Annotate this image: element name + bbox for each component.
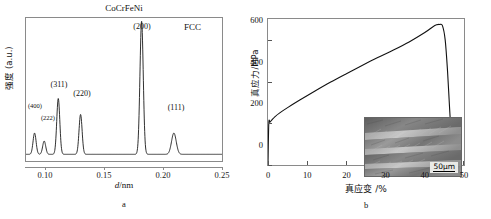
scale-bar-line [433, 171, 455, 172]
figure-container: CoCrFeNi 强度 (a.u.) FCC (400) (222) (311)… [0, 0, 491, 219]
panel-b-stress-strain: 真应力/MPa [245, 0, 491, 219]
panel-b-xtick-0 [268, 161, 269, 165]
panel-b-ytick-0 [268, 165, 272, 166]
panel-a-y-axis-label: 强度 (a.u.) [2, 32, 14, 104]
peak-label-200: (200) [133, 22, 150, 31]
panel-a-xtick-label-1: 0.15 [97, 170, 112, 180]
panel-a-letter: a [25, 199, 223, 209]
panel-b-letter: b [267, 200, 465, 210]
panel-a-x-axis-label-unit: /nm [119, 180, 133, 190]
panel-b-xtick-label-50: 50 [454, 170, 474, 180]
panel-b-ytick-600 [268, 40, 272, 41]
panel-b-ytick-label-400: 400 [239, 57, 263, 67]
panel-b-x-axis-label: 真应变 /% [267, 182, 465, 195]
peak-label-111: (111) [168, 103, 185, 112]
peak-label-220: (220) [73, 89, 90, 98]
panel-b-xtick-20 [346, 161, 347, 165]
panel-a-xrd: CoCrFeNi 强度 (a.u.) FCC (400) (222) (311)… [0, 0, 245, 219]
panel-b-xtick-50 [463, 161, 464, 165]
panel-b-ytick-label-0: 0 [239, 140, 263, 150]
panel-b-ytick-200 [268, 123, 272, 124]
sem-micrograph-inset: 50μm [364, 117, 462, 177]
panel-b-ytick-400 [268, 82, 272, 83]
peak-label-222: (222) [41, 114, 55, 121]
panel-b-xtick-label-30: 30 [376, 170, 396, 180]
panel-b-xtick-label-20: 20 [336, 170, 356, 180]
peak-label-311: (311) [50, 80, 67, 89]
panel-b-ytick-label-200: 200 [239, 98, 263, 108]
panel-b-ytick-label-600: 600 [239, 15, 263, 25]
panel-a-xtick-label-3: 0.25 [215, 170, 230, 180]
panel-b-xtick-label-10: 10 [297, 170, 317, 180]
panel-a-x-axis-label: d/nm [25, 180, 223, 190]
panel-a-plot-frame: FCC (400) (222) (311) (220) (200) (111) [25, 17, 223, 162]
panel-b-xtick-label-0: 0 [258, 170, 278, 180]
panel-b-xtick-label-40: 40 [415, 170, 435, 180]
scale-bar-label: 50μm [433, 162, 455, 171]
xrd-pattern-curve [26, 18, 222, 161]
panel-a-xtick-label-2: 0.20 [156, 170, 171, 180]
panel-b-xtick-10 [307, 161, 308, 165]
peak-label-400: (400) [28, 102, 42, 109]
panel-b-plot-frame: 50μm [267, 18, 465, 166]
panel-a-x-axis [25, 167, 223, 168]
panel-a-title: CoCrFeNi [25, 3, 223, 13]
panel-a-xtick-label-0: 0.10 [38, 170, 53, 180]
